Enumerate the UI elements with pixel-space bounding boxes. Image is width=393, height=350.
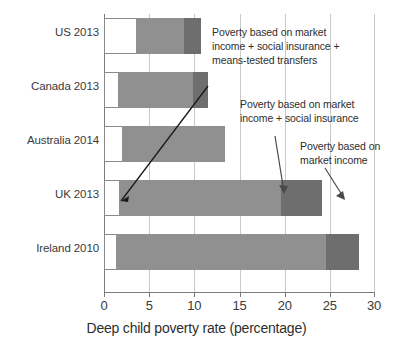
annotation-line: Poverty based on market [212, 26, 362, 40]
annotation-line: income + social insurance [240, 112, 380, 126]
bar-segment-social-insurance [118, 72, 193, 108]
x-tick-30 [374, 292, 375, 297]
bar-row [104, 180, 322, 216]
bar-row [104, 72, 208, 108]
x-tick-25 [330, 292, 331, 297]
x-tick-20 [285, 292, 286, 297]
x-tick-label-0: 0 [100, 298, 107, 313]
annotation-line: Poverty based on market [240, 98, 380, 112]
bar-row [104, 234, 359, 270]
x-tick-label-20: 20 [278, 298, 292, 313]
bar-segment-social-insurance [136, 18, 185, 54]
category-label-uk: UK 2013 [55, 188, 99, 200]
x-tick-5 [149, 292, 150, 297]
bar-segment-social-insurance [122, 126, 225, 162]
bar-segment-market-income [184, 18, 200, 54]
annotation-line: Poverty based on [300, 140, 392, 154]
x-tick-label-5: 5 [146, 298, 153, 313]
deep-child-poverty-bar-chart: US 2013 Canada 2013 Australia 2014 UK 20… [0, 0, 393, 350]
x-tick-label-30: 30 [367, 298, 381, 313]
bar-segment-market-income [281, 180, 322, 216]
bar-segment-market-income [193, 72, 208, 108]
x-tick-label-10: 10 [187, 298, 201, 313]
x-tick-label-25: 25 [323, 298, 337, 313]
bar-segment-transfers [104, 234, 116, 270]
bar-segment-transfers [104, 72, 118, 108]
category-label-australia: Australia 2014 [27, 134, 99, 146]
bar-segment-social-insurance [119, 180, 282, 216]
bar-row [104, 126, 225, 162]
annotation-line: means-tested transfers [212, 54, 362, 68]
x-axis-title: Deep child poverty rate (percentage) [0, 320, 393, 336]
annotation-market-income: Poverty based on market income [300, 140, 392, 168]
category-label-canada: Canada 2013 [31, 80, 99, 92]
x-tick-10 [194, 292, 195, 297]
x-tick-0 [104, 292, 105, 297]
annotation-transfers: Poverty based on market income + social … [212, 26, 362, 68]
x-tick-15 [240, 292, 241, 297]
annotation-line: income + social insurance + [212, 40, 362, 54]
annotation-line: market income [300, 154, 392, 168]
x-tick-label-15: 15 [232, 298, 246, 313]
bar-segment-transfers [104, 18, 136, 54]
bar-segment-market-income [326, 234, 359, 270]
annotation-social-insurance: Poverty based on market income + social … [240, 98, 380, 126]
bar-segment-transfers [104, 180, 119, 216]
bar-segment-transfers [104, 126, 122, 162]
bar-segment-social-insurance [116, 234, 326, 270]
category-label-us: US 2013 [55, 26, 99, 38]
bar-row [104, 18, 201, 54]
category-label-ireland: Ireland 2010 [36, 242, 99, 254]
